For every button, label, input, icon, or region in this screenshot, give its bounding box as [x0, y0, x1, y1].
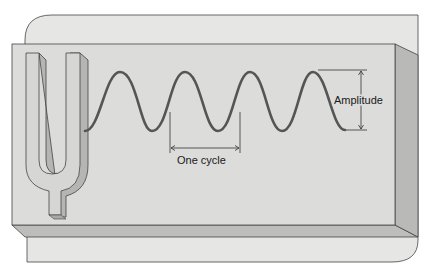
amplitude-label: Amplitude — [334, 94, 383, 106]
block-bottom-face — [12, 225, 418, 237]
tuning-fork-wave-diagram: One cycle Amplitude — [0, 0, 432, 273]
block-side-face — [395, 44, 418, 237]
one-cycle-label: One cycle — [177, 154, 226, 166]
